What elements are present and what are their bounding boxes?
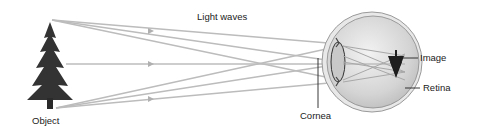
object-label: Object [32,116,59,126]
tree-object [27,22,73,109]
eyeball [322,12,422,112]
image-label: Image [420,53,446,63]
ray-arrowheads [148,28,154,102]
light-rays [52,20,340,108]
cornea-label: Cornea [300,111,331,121]
eye-optics-diagram: Light waves Object Cornea Image Retina [0,0,478,136]
light-waves-label: Light waves [197,12,247,22]
retina-label: Retina [423,83,450,93]
